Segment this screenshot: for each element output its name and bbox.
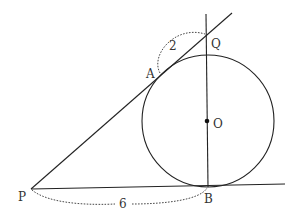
label-q: Q xyxy=(211,37,221,51)
dimension-arc-aq xyxy=(158,32,205,73)
label-p: P xyxy=(18,190,26,204)
line-qb xyxy=(206,14,208,187)
label-a: A xyxy=(145,67,155,81)
label-b: B xyxy=(204,192,213,206)
label-o: O xyxy=(213,117,223,131)
dimension-arc-pb-left xyxy=(32,190,115,204)
tangent-line-pq xyxy=(31,13,232,189)
dimension-arc-pb-right xyxy=(132,188,207,204)
measure-aq: 2 xyxy=(169,39,177,53)
geometry-figure: P B A Q O 2 6 xyxy=(0,0,300,221)
measure-pb: 6 xyxy=(119,197,127,211)
center-point-o xyxy=(205,119,210,124)
tangent-line-pb xyxy=(31,184,285,189)
